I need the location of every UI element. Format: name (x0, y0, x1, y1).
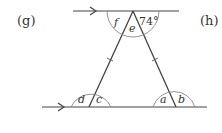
angle-label-f: f (113, 16, 120, 29)
angle-label-b: b (178, 93, 185, 106)
angle-label-e: e (129, 22, 136, 35)
left-foot-angle-arc (71, 94, 111, 107)
part-label-g: (g) (17, 13, 35, 28)
angle-label-d: d (78, 93, 85, 106)
angle-label-c: c (96, 93, 102, 106)
part-label-h: (h) (200, 13, 219, 28)
angle-label-74: 74° (139, 15, 159, 28)
angle-label-a: a (160, 93, 167, 106)
parallel-lines-diagram: (g) (h) f e 74° d c a b (0, 0, 222, 133)
